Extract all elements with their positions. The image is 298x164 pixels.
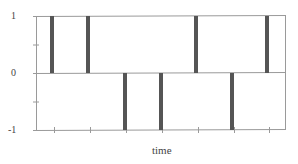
bar-t5 — [194, 16, 198, 73]
y-tick-label-0: 0 — [11, 67, 16, 78]
chart-canvas — [0, 0, 298, 164]
y-tick-label-minus-1: -1 — [8, 124, 16, 135]
bar-t7 — [265, 16, 269, 73]
bar-t2 — [86, 16, 90, 73]
y-tick-label-1: 1 — [11, 10, 16, 21]
bar-t3 — [123, 73, 127, 130]
bar-t4 — [159, 73, 163, 130]
x-axis-label: time — [152, 144, 172, 156]
top-border-line — [34, 16, 286, 17]
bar-t6 — [230, 73, 234, 130]
bar-t1 — [50, 16, 54, 73]
